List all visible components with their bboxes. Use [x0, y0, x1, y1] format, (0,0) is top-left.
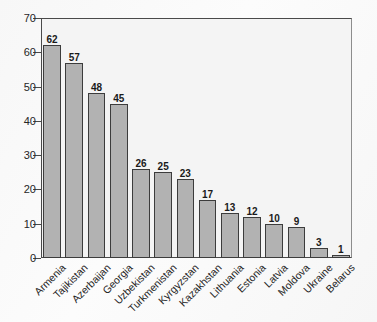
bar-value-label: 45 — [113, 94, 124, 104]
bar-value-label: 48 — [91, 83, 102, 93]
bar-chart-figure: 010203040506070 625748452625231713121093… — [0, 0, 377, 322]
bar-value-label: 17 — [202, 190, 213, 200]
bar-value-label: 57 — [69, 53, 80, 63]
y-axis-tick-label: 20 — [24, 184, 36, 195]
y-axis-tick-label: 30 — [24, 150, 36, 161]
bar: 9 — [288, 227, 306, 258]
y-axis-tick-label: 50 — [24, 81, 36, 92]
y-axis-tick-label: 40 — [24, 115, 36, 126]
bar: 12 — [243, 217, 261, 258]
bar: 25 — [154, 172, 172, 258]
bar-value-label: 3 — [316, 238, 322, 248]
bar: 3 — [310, 248, 328, 258]
bar-value-label: 26 — [135, 159, 146, 169]
bar: 48 — [88, 93, 106, 258]
bar-value-label: 23 — [180, 169, 191, 179]
bar: 45 — [110, 104, 128, 258]
y-axis-tick-label: 10 — [24, 218, 36, 229]
bar: 57 — [65, 63, 83, 258]
bar-value-label: 9 — [294, 217, 300, 227]
bar: 62 — [43, 45, 61, 258]
bar-value-label: 62 — [47, 35, 58, 45]
bar: 26 — [132, 169, 150, 258]
bar: 13 — [221, 213, 239, 258]
bar-value-label: 1 — [338, 245, 344, 255]
bar: 10 — [265, 224, 283, 258]
bar: 1 — [332, 255, 350, 258]
plot-area: 010203040506070 625748452625231713121093… — [41, 18, 352, 258]
bar-value-label: 25 — [158, 162, 169, 172]
bar-value-label: 12 — [246, 207, 257, 217]
y-axis-tick-label: 60 — [24, 47, 36, 58]
bar-value-label: 13 — [224, 203, 235, 213]
bar: 23 — [177, 179, 195, 258]
y-axis-tick-label: 0 — [30, 253, 36, 264]
bar: 17 — [199, 200, 217, 258]
y-axis-tick-label: 70 — [24, 13, 36, 24]
bar-value-label: 10 — [269, 214, 280, 224]
